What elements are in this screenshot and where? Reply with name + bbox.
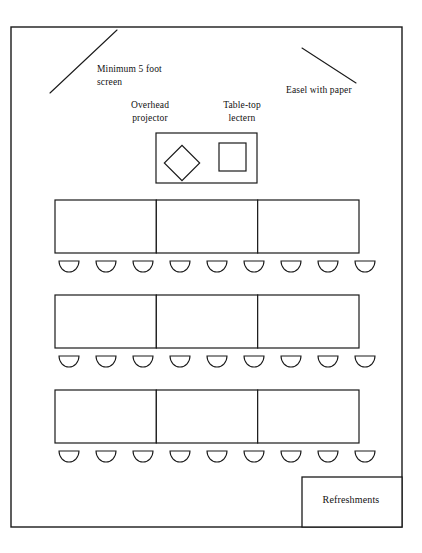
table-1-1 [55,200,156,253]
table-top-lectern-shape [219,143,246,171]
room-layout-diagram [0,0,422,553]
screen-label: Minimum 5 foot screen [97,63,197,88]
table-3-3 [258,390,359,443]
table-2-3 [258,295,359,348]
seating-area [55,200,375,462]
easel-label: Easel with paper [286,84,396,97]
overhead-projector-label: Overhead projector [108,99,192,124]
table-3-2 [156,390,257,443]
table-top-lectern-label: Table-top lectern [200,99,284,124]
table-2-2 [156,295,257,348]
table-3-1 [55,390,156,443]
table-1-3 [258,200,359,253]
refreshments-label: Refreshments [303,494,399,507]
table-1-2 [156,200,257,253]
table-2-1 [55,295,156,348]
